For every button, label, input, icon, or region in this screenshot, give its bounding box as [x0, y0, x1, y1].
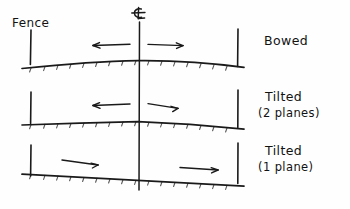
right-arrow-tilted2	[148, 104, 178, 112]
right-arrow-bowed	[148, 43, 183, 49]
centerline-vertical	[139, 22, 140, 190]
label-tilted-one-plane: Tilted	[264, 143, 302, 158]
ground-line-bowed	[22, 61, 244, 69]
fence-grading-diagram: Fence Bowed Tilted (2 planes) Tilted (1 …	[0, 0, 350, 209]
ground-line-tilted1	[22, 174, 244, 186]
row-tilted-one-plane	[22, 143, 244, 189]
left-fence-post-bowed	[30, 30, 31, 65]
diagram-canvas: Fence Bowed Tilted (2 planes) Tilted (1 …	[0, 0, 350, 209]
left-arrow-tilted1	[62, 160, 98, 168]
fence-label: Fence	[12, 16, 49, 30]
row-tilted-two-planes	[22, 90, 244, 132]
sublabel-tilted-one-plane: (1 plane)	[258, 160, 313, 174]
sublabel-tilted-two-planes: (2 planes)	[258, 106, 320, 120]
label-tilted-two-planes: Tilted	[264, 89, 302, 104]
left-arrow-bowed	[93, 43, 130, 49]
left-arrow-tilted2	[93, 103, 130, 109]
ground-line-tilted2	[22, 122, 244, 130]
right-arrow-tilted1	[180, 168, 218, 173]
row-bowed	[22, 29, 244, 72]
centerline-symbol	[132, 8, 145, 19]
label-bowed: Bowed	[264, 33, 308, 48]
